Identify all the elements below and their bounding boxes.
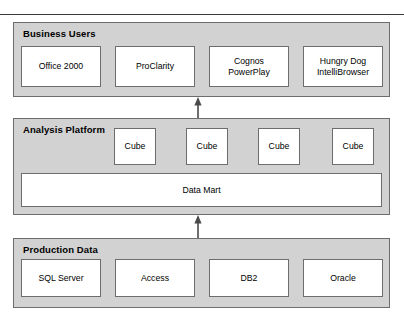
box-label-line2: PowerPlay bbox=[228, 67, 270, 77]
box-cube-2: Cube bbox=[186, 128, 228, 165]
box-label-line1: Cube bbox=[195, 141, 220, 152]
architecture-diagram: Business Users Office 2000 ProClarity Co… bbox=[0, 0, 404, 325]
top-divider-rule bbox=[0, 14, 404, 15]
arrow-up-icon bbox=[192, 215, 204, 238]
tier-label-business-users: Business Users bbox=[23, 28, 96, 39]
box-label-line1: Office 2000 bbox=[39, 61, 83, 71]
box-label-line1: ProClarity bbox=[136, 61, 174, 71]
box-label-line1: Oracle bbox=[328, 273, 358, 284]
arrow-production-to-analysis bbox=[192, 215, 204, 238]
box-label-line1: DB2 bbox=[239, 273, 260, 284]
arrow-up-icon bbox=[192, 97, 204, 118]
tier-production-data: Production Data SQL Server Access DB2 Or… bbox=[13, 238, 390, 308]
tier-label-production-data: Production Data bbox=[23, 244, 98, 255]
box-cognos-powerplay: Cognos PowerPlay bbox=[209, 46, 289, 87]
box-hungry-dog-intellibrowser: Hungry Dog IntelliBrowser bbox=[303, 46, 383, 87]
box-label-line1: Cognos bbox=[234, 56, 264, 66]
tier-analysis-platform: Analysis Platform Cube Cube Cube Cube Da… bbox=[13, 118, 390, 215]
box-sql-server: SQL Server bbox=[21, 259, 101, 297]
tier-business-users: Business Users Office 2000 ProClarity Co… bbox=[13, 22, 390, 97]
box-label-line1: SQL Server bbox=[36, 273, 85, 284]
box-label-line1: Cube bbox=[267, 141, 292, 152]
box-label-line1: Cube bbox=[123, 141, 148, 152]
box-access: Access bbox=[115, 259, 195, 297]
tier-label-analysis-platform: Analysis Platform bbox=[23, 124, 105, 135]
box-proclarity: ProClarity bbox=[115, 46, 195, 87]
box-label-line1: Hungry Dog bbox=[320, 56, 366, 66]
box-label-line2: IntelliBrowser bbox=[317, 67, 369, 77]
box-oracle: Oracle bbox=[303, 259, 383, 297]
box-label-line1: Data Mart bbox=[180, 185, 222, 196]
box-cube-4: Cube bbox=[332, 128, 374, 165]
box-cube-1: Cube bbox=[114, 128, 156, 165]
box-db2: DB2 bbox=[209, 259, 289, 297]
box-cube-3: Cube bbox=[258, 128, 300, 165]
box-data-mart: Data Mart bbox=[21, 173, 382, 207]
box-office-2000: Office 2000 bbox=[21, 46, 101, 87]
box-label-line1: Access bbox=[139, 273, 171, 284]
arrow-analysis-to-business bbox=[192, 97, 204, 118]
box-label-line1: Cube bbox=[341, 141, 366, 152]
